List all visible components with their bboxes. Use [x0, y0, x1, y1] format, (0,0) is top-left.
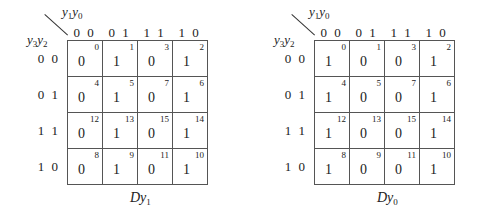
column-header: 0 1: [102, 26, 137, 39]
kmap-cell-m8: 81: [315, 149, 350, 185]
minterm-index: 3: [412, 43, 417, 52]
kmap-cell-m8: 80: [68, 149, 103, 185]
row-header: 1 1: [277, 124, 307, 137]
kmap-cell-m9: 91: [103, 149, 138, 185]
kmap-cell-m11: 110: [385, 149, 420, 185]
minterm-index: 0: [342, 43, 347, 52]
minterm-index: 15: [160, 115, 169, 124]
kmap-cell-m13: 130: [350, 113, 385, 149]
minterm-index: 13: [372, 115, 381, 124]
kmap-cell-m2: 21: [173, 41, 208, 77]
kmap-cell-m6: 61: [173, 77, 208, 113]
minterm-index: 7: [412, 79, 417, 88]
kmap-cell-m6: 61: [420, 77, 455, 113]
minterm-index: 1: [377, 43, 382, 52]
cell-value: 0: [360, 127, 367, 141]
column-header: 0 0: [314, 26, 349, 39]
kmap-caption: Dy1: [130, 191, 151, 207]
kmap-cell-m14: 141: [173, 113, 208, 149]
cell-value: 0: [395, 91, 402, 105]
kmap-cell-m2: 21: [420, 41, 455, 77]
minterm-index: 3: [165, 43, 170, 52]
minterm-index: 15: [407, 115, 416, 124]
row-variables-label: y3y2: [274, 33, 295, 49]
kmap-grid: 00 11 30 21 40 51 70 61 120 131 150 141 …: [67, 40, 208, 185]
minterm-index: 10: [442, 151, 451, 160]
kmap-dy1: y1y0 y3y2 0 0 0 1 1 1 1 0 0 0 0 1 1 1 1 …: [0, 0, 240, 215]
minterm-index: 8: [95, 151, 100, 160]
cell-value: 0: [395, 55, 402, 69]
kmap-cell-m15: 150: [138, 113, 173, 149]
row-header: 1 1: [30, 124, 60, 137]
minterm-index: 5: [130, 79, 135, 88]
kmap-cell-m4: 41: [315, 77, 350, 113]
row-header: 0 1: [30, 88, 60, 101]
kmap-cell-m10: 101: [173, 149, 208, 185]
cell-value: 0: [395, 163, 402, 177]
minterm-index: 6: [447, 79, 452, 88]
row-header: 0 0: [277, 52, 307, 65]
cell-value: 0: [78, 163, 85, 177]
kmap-cell-m12: 120: [68, 113, 103, 149]
kmap-cell-m7: 70: [138, 77, 173, 113]
kmap-cell-m3: 30: [385, 41, 420, 77]
cell-value: 0: [360, 91, 367, 105]
cell-value: 0: [395, 127, 402, 141]
column-header: 0 0: [67, 26, 102, 39]
cell-value: 1: [183, 127, 190, 141]
cell-value: 1: [113, 127, 120, 141]
cell-value: 1: [183, 91, 190, 105]
cell-value: 1: [183, 163, 190, 177]
cell-value: 0: [78, 91, 85, 105]
cell-value: 1: [430, 163, 437, 177]
kmap-cell-m4: 40: [68, 77, 103, 113]
kmap-cell-m5: 50: [350, 77, 385, 113]
kmap-cell-m5: 51: [103, 77, 138, 113]
minterm-index: 4: [95, 79, 100, 88]
minterm-index: 6: [200, 79, 205, 88]
kmap-dy0: y1y0 y3y2 0 0 0 1 1 1 1 0 0 0 0 1 1 1 1 …: [247, 0, 481, 215]
kmap-cell-m7: 70: [385, 77, 420, 113]
row-header: 0 1: [277, 88, 307, 101]
cell-value: 1: [430, 91, 437, 105]
cell-value: 1: [325, 55, 332, 69]
minterm-index: 11: [407, 151, 416, 160]
cell-value: 1: [325, 163, 332, 177]
row-header: 0 0: [30, 52, 60, 65]
minterm-index: 14: [442, 115, 451, 124]
minterm-index: 0: [95, 43, 100, 52]
minterm-index: 7: [165, 79, 170, 88]
row-header: 1 0: [30, 160, 60, 173]
kmap-caption: Dy0: [377, 191, 398, 207]
cell-value: 0: [78, 55, 85, 69]
minterm-index: 9: [377, 151, 382, 160]
cell-value: 1: [113, 163, 120, 177]
column-header: 1 0: [419, 26, 454, 39]
kmap-cell-m9: 90: [350, 149, 385, 185]
cell-value: 1: [183, 55, 190, 69]
kmap-cell-m10: 101: [420, 149, 455, 185]
minterm-index: 14: [195, 115, 204, 124]
kmap-cell-m12: 121: [315, 113, 350, 149]
cell-value: 0: [148, 127, 155, 141]
minterm-index: 12: [337, 115, 346, 124]
column-variables-label: y1y0: [309, 5, 330, 21]
cell-value: 1: [113, 55, 120, 69]
minterm-index: 12: [90, 115, 99, 124]
kmap-cell-m11: 110: [138, 149, 173, 185]
cell-value: 0: [148, 55, 155, 69]
minterm-index: 9: [130, 151, 135, 160]
kmap-grid: 01 10 30 21 41 50 70 61 121 130 150 141 …: [314, 40, 455, 185]
cell-value: 1: [325, 127, 332, 141]
cell-value: 0: [78, 127, 85, 141]
cell-value: 1: [430, 55, 437, 69]
cell-value: 0: [148, 163, 155, 177]
column-variables-label: y1y0: [62, 5, 83, 21]
column-header: 1 1: [384, 26, 419, 39]
kmap-cell-m0: 00: [68, 41, 103, 77]
cell-value: 1: [325, 91, 332, 105]
minterm-index: 11: [160, 151, 169, 160]
kmap-cell-m15: 150: [385, 113, 420, 149]
row-variables-label: y3y2: [27, 33, 48, 49]
minterm-index: 10: [195, 151, 204, 160]
